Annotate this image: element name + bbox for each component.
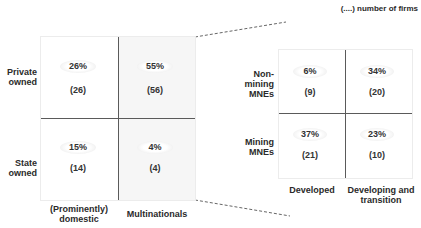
pct-nonmining-developing: 34% [360,65,394,78]
pct-private-multinational: 55% [137,60,173,73]
pct-nonmining-developed: 6% [293,65,327,78]
count-nonmining-developed: (9) [293,87,327,98]
col-label-developed: Developed [280,185,344,195]
count-private-multinational: (56) [137,85,173,96]
col-label-developing-and-transition: Developing and transition [344,185,418,205]
horizontal-divider [279,113,412,114]
row-label-state-owned: State owned [0,158,37,178]
pct-state-multinational: 4% [137,141,173,154]
count-state-domestic: (14) [60,163,96,174]
connector-top-line [195,22,286,37]
row-label-non-mining-mnes: Non- mining MNEs [236,69,274,99]
cell-nonmining-developing [345,50,412,113]
connector-bottom-line [195,200,290,216]
horizontal-divider [41,118,195,119]
pct-mining-developed: 37% [293,128,327,141]
cell-private-multinational [118,37,195,118]
pct-private-domestic: 26% [60,60,96,73]
cell-nonmining-developed [279,50,345,113]
cell-mining-developed [279,113,345,178]
cell-private-domestic [41,37,118,118]
vertical-divider [345,50,346,178]
pct-mining-developing: 23% [360,128,394,141]
cell-state-domestic [41,118,118,200]
count-mining-developing: (10) [360,150,394,161]
col-label-multinationals: Multinationals [122,209,192,219]
cell-mining-developing [345,113,412,178]
row-label-mining-mnes: Mining MNEs [236,137,274,157]
row-label-private-owned: Private owned [0,67,37,87]
legend-note: (....) number of firms [330,4,418,13]
count-state-multinational: (4) [137,163,173,174]
ownership-matrix [40,36,196,201]
count-mining-developed: (21) [293,150,327,161]
cell-state-multinational [118,118,195,200]
count-nonmining-developing: (20) [360,87,394,98]
col-label-prominently-domestic: (Prominently) domestic [48,204,110,224]
pct-state-domestic: 15% [60,141,96,154]
count-private-domestic: (26) [60,85,96,96]
